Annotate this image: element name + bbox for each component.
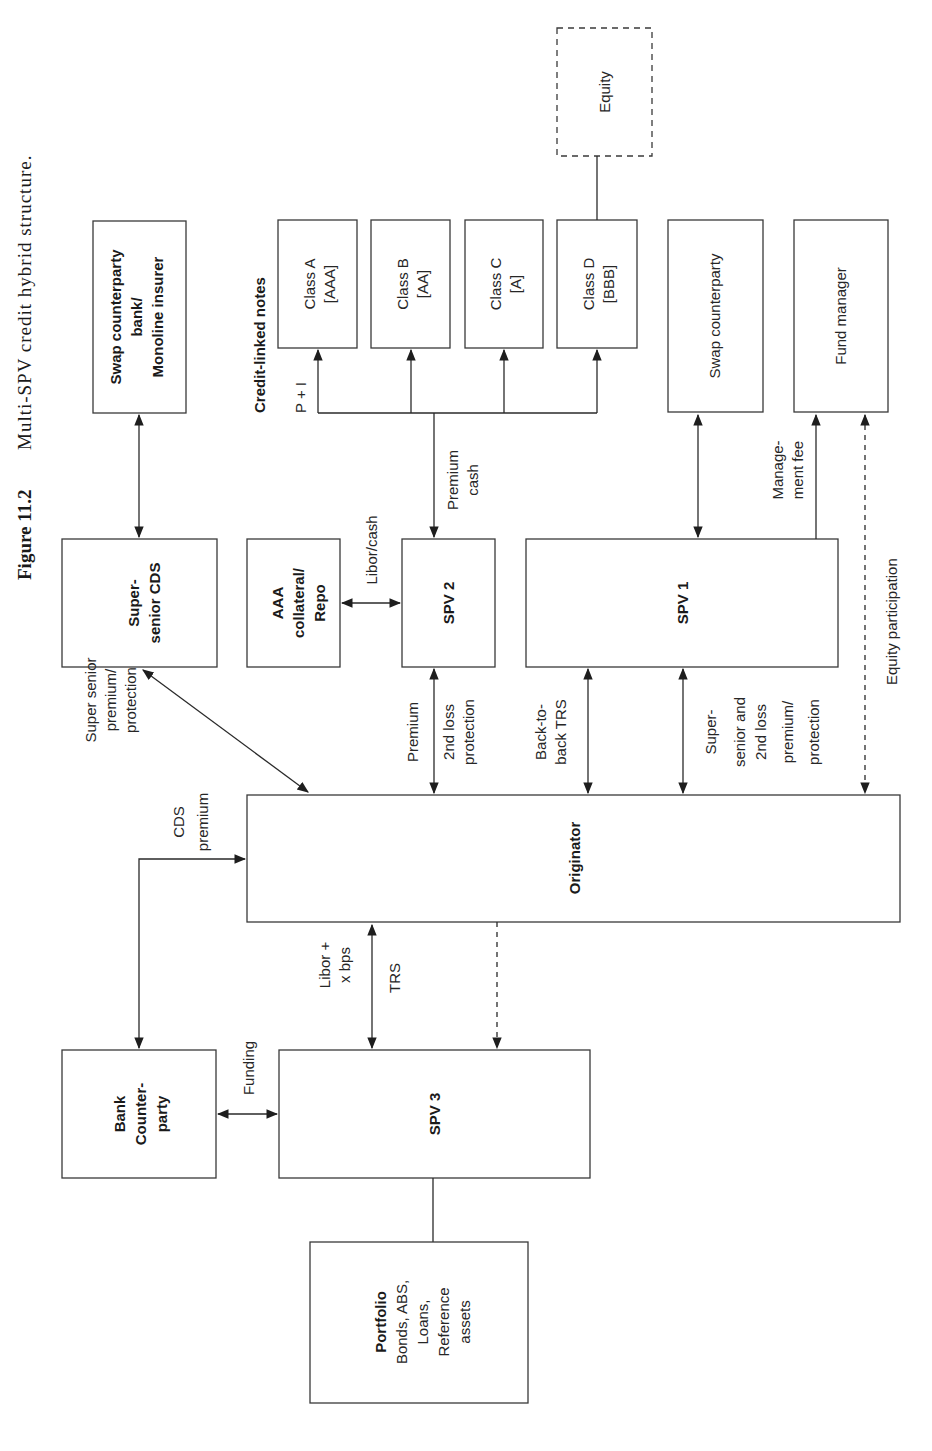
node-aaa-collateral: AAA collateral/ Repo [247, 539, 340, 667]
svg-text:Loans,: Loans, [414, 1299, 431, 1344]
node-class-c: Class C [A] [465, 220, 543, 348]
svg-text:Libor +: Libor + [316, 942, 333, 989]
svg-text:Premium: Premium [444, 450, 461, 510]
arrow-cds-premium [139, 859, 245, 1048]
figure-number: Figure 11.2 [14, 490, 35, 580]
svg-text:SPV 3: SPV 3 [426, 1093, 443, 1136]
svg-text:Monoline insurer: Monoline insurer [149, 256, 166, 377]
label-management-fee: Manage- ment fee [769, 440, 806, 499]
label-premium-cash: Premium cash [444, 450, 481, 510]
node-class-b: Class B [AA] [371, 220, 450, 348]
node-portfolio: Portfolio Bonds, ABS, Loans, Reference a… [310, 1242, 528, 1403]
svg-text:Super-: Super- [125, 579, 142, 627]
label-super-senior-premium: Super senior premium/ protection [82, 657, 139, 742]
node-originator: Originator [247, 795, 900, 922]
svg-text:protection: protection [122, 667, 139, 733]
svg-text:SPV 2: SPV 2 [440, 582, 457, 625]
svg-text:SPV 1: SPV 1 [674, 582, 691, 625]
label-trs: TRS [386, 963, 403, 993]
svg-text:CDS: CDS [170, 806, 187, 838]
label-libor-cash: Libor/cash [363, 515, 380, 584]
svg-text:Super-: Super- [702, 709, 719, 754]
node-super-senior-cds: Super- senior CDS [62, 539, 217, 667]
note-distribution-bus [318, 350, 597, 413]
label-equity-participation: Equity participation [883, 558, 900, 685]
svg-text:Manage-: Manage- [769, 440, 786, 499]
svg-text:premium/: premium/ [102, 668, 119, 731]
svg-text:[A]: [A] [507, 275, 524, 293]
node-equity: Equity [557, 28, 652, 156]
svg-text:collateral/: collateral/ [290, 567, 307, 638]
svg-text:[AA]: [AA] [414, 270, 431, 298]
node-spv3: SPV 3 [279, 1050, 590, 1178]
svg-text:Back-to-: Back-to- [532, 704, 549, 760]
svg-text:[BBB]: [BBB] [600, 265, 617, 303]
node-swap-counterparty: Swap counterparty [668, 220, 763, 412]
label-spv1-link: Super- senior and 2nd loss premium/ prot… [702, 697, 822, 767]
figure-caption: Multi-SPV credit hybrid structure. [14, 155, 35, 450]
node-class-d: Class D [BBB] [557, 220, 637, 348]
svg-text:AAA: AAA [269, 587, 286, 620]
node-bank-counterparty: Bank Counter- party [62, 1050, 216, 1178]
svg-text:[AAA]: [AAA] [321, 265, 338, 303]
svg-text:premium/: premium/ [779, 700, 796, 763]
node-fund-manager: Fund manager [794, 220, 888, 412]
svg-text:Swap counterparty: Swap counterparty [706, 253, 723, 379]
svg-text:Equity: Equity [596, 71, 613, 113]
svg-text:Bonds, ABS,: Bonds, ABS, [393, 1280, 410, 1364]
svg-text:2nd loss: 2nd loss [752, 704, 769, 760]
node-class-a: Class A [AAA] [278, 220, 357, 348]
node-swap-monoline: Swap counterparty bank/ Monoline insurer [93, 221, 186, 413]
node-spv2: SPV 2 [402, 539, 495, 667]
svg-text:Portfolio: Portfolio [372, 1291, 389, 1353]
svg-text:Originator: Originator [566, 822, 583, 895]
arrow-super-senior-cds-originator [143, 670, 308, 792]
svg-text:Repo: Repo [311, 584, 328, 622]
svg-text:assets: assets [456, 1300, 473, 1343]
svg-text:Swap counterparty: Swap counterparty [107, 249, 124, 385]
svg-text:Super senior: Super senior [82, 657, 99, 742]
svg-text:Premium: Premium [404, 702, 421, 762]
svg-text:back TRS: back TRS [552, 699, 569, 765]
svg-text:premium: premium [194, 793, 211, 851]
node-spv1: SPV 1 [526, 539, 838, 667]
cln-heading: Credit-linked notes [251, 277, 268, 413]
svg-text:Class D: Class D [580, 258, 597, 311]
svg-text:protection: protection [460, 699, 477, 765]
svg-text:cash: cash [464, 464, 481, 496]
svg-text:party: party [153, 1095, 170, 1132]
figure-title: Figure 11.2 Multi-SPV credit hybrid stru… [14, 155, 35, 580]
svg-text:Class B: Class B [394, 258, 411, 310]
multi-spv-diagram: Figure 11.2 Multi-SPV credit hybrid stru… [0, 0, 932, 1451]
svg-text:Bank: Bank [111, 1095, 128, 1132]
label-back-to-back-trs: Back-to- back TRS [532, 699, 569, 765]
svg-text:Class C: Class C [487, 258, 504, 311]
svg-text:Fund manager: Fund manager [832, 267, 849, 365]
label-spv2-link: Premium 2nd loss protection [404, 699, 477, 765]
svg-text:bank/: bank/ [128, 297, 145, 337]
svg-text:protection: protection [805, 699, 822, 765]
svg-text:2nd loss: 2nd loss [440, 704, 457, 760]
svg-text:x bps: x bps [336, 947, 353, 983]
label-p-plus-i: P + I [292, 382, 309, 413]
svg-text:Reference: Reference [435, 1287, 452, 1356]
svg-text:Counter-: Counter- [132, 1083, 149, 1146]
svg-text:senior CDS: senior CDS [146, 563, 163, 644]
svg-text:senior and: senior and [731, 697, 748, 767]
svg-text:Class A: Class A [301, 259, 318, 310]
label-libor-bps: Libor + x bps [316, 942, 353, 989]
label-cds-premium: CDS premium [170, 793, 211, 851]
svg-text:ment fee: ment fee [789, 441, 806, 499]
label-funding: Funding [240, 1041, 257, 1095]
